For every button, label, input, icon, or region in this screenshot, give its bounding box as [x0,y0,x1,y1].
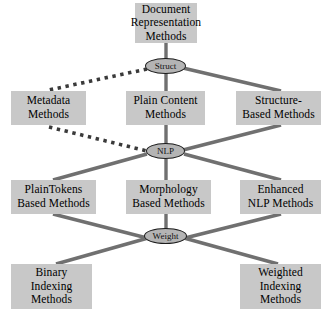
node-label-line: Binary [36,266,68,280]
edge-struct-to-structurebased [183,68,281,91]
edge-weight-to-weightedindexing [184,238,278,264]
edge-weight-to-binaryindexing [56,238,148,264]
node-label-line: PlainTokens [25,183,83,197]
node-label-line: Methods [28,108,69,122]
node-label-line: Metadata [27,94,71,108]
edge-nlp-to-enhancednlp [184,154,281,180]
node-metadata-methods[interactable]: Metadata Methods [11,91,86,125]
node-nlp-decision[interactable]: NLP [146,143,185,159]
node-structure-based-methods[interactable]: Structure- Based Methods [236,91,321,125]
node-label-line: Methods [145,108,186,122]
node-label-line: Plain Content [133,94,197,108]
node-ellipse-label: Struct [155,62,177,71]
node-label-line: Structure- [255,94,302,108]
node-label-line: Indexing [260,280,302,294]
edge-metadata-to-nlp-dotted [49,127,147,151]
node-struct-decision[interactable]: Struct [145,58,186,74]
edge-struct-to-metadata-dotted [49,69,147,90]
node-label-line: Methods [31,293,72,307]
node-label-line: Based Methods [17,197,90,211]
node-label-line: Representation [131,16,201,30]
node-weighted-indexing-methods[interactable]: Weighted Indexing Methods [240,264,321,309]
node-label-line: Based Methods [132,197,205,211]
diagram-canvas: Document Representation Methods Metadata… [0,0,326,315]
edge-nlp-to-plaintokens [53,154,147,180]
node-enhanced-nlp-methods[interactable]: Enhanced NLP Methods [240,180,321,214]
edge-plaintokens-to-weight [53,214,147,238]
node-label-line: Morphology [139,183,198,197]
node-ellipse-label: NLP [157,147,174,156]
edge-structurebased-to-nlp [183,125,281,150]
node-binary-indexing-methods[interactable]: Binary Indexing Methods [11,264,92,309]
node-label-line: Methods [260,293,301,307]
node-label-line: Document [142,3,191,17]
node-plain-content-methods[interactable]: Plain Content Methods [126,91,205,125]
node-label-line: Enhanced [257,183,303,197]
node-label-line: Methods [146,30,187,44]
node-morphology-based-methods[interactable]: Morphology Based Methods [126,180,211,214]
node-label-line: Weighted [258,266,303,280]
node-document-representation-methods[interactable]: Document Representation Methods [135,3,197,43]
edge-enhancednlp-to-weight [185,214,281,238]
node-label-line: Indexing [31,280,73,294]
node-weight-decision[interactable]: Weight [144,228,187,244]
node-label-line: NLP Methods [248,197,314,211]
node-ellipse-label: Weight [153,232,179,241]
node-plaintokens-based-methods[interactable]: PlainTokens Based Methods [11,180,96,214]
node-label-line: Based Methods [242,108,315,122]
